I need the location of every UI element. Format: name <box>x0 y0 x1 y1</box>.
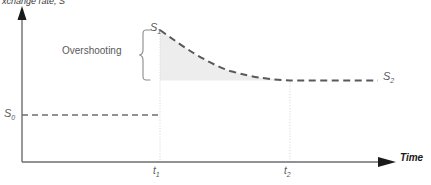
x-axis-label-time: Time <box>400 152 423 163</box>
label-s0-subscript: 0 <box>11 114 15 121</box>
overshooting-diagram: xchange rate, S S0 S1 S2 Overshooting t1… <box>0 0 431 185</box>
label-s2: S2 <box>383 70 394 84</box>
y-axis-title: xchange rate, S <box>2 0 65 6</box>
diagram-canvas <box>0 0 431 185</box>
label-t2-subscript: 2 <box>287 171 291 178</box>
label-s0: S0 <box>4 107 15 121</box>
label-s1-subscript: 1 <box>157 28 161 35</box>
overshooting-shaded-area <box>160 30 290 81</box>
x-axis-arrowhead <box>378 157 396 167</box>
y-axis-arrowhead <box>18 6 27 20</box>
label-t1-subscript: 1 <box>156 171 160 178</box>
label-s2-subscript: 2 <box>390 77 394 84</box>
label-s1: S1 <box>150 21 161 35</box>
tick-label-t2: t2 <box>284 165 291 178</box>
overshooting-annotation: Overshooting <box>62 45 121 56</box>
tick-label-t1: t1 <box>153 165 160 178</box>
overshooting-brace <box>140 30 151 80</box>
